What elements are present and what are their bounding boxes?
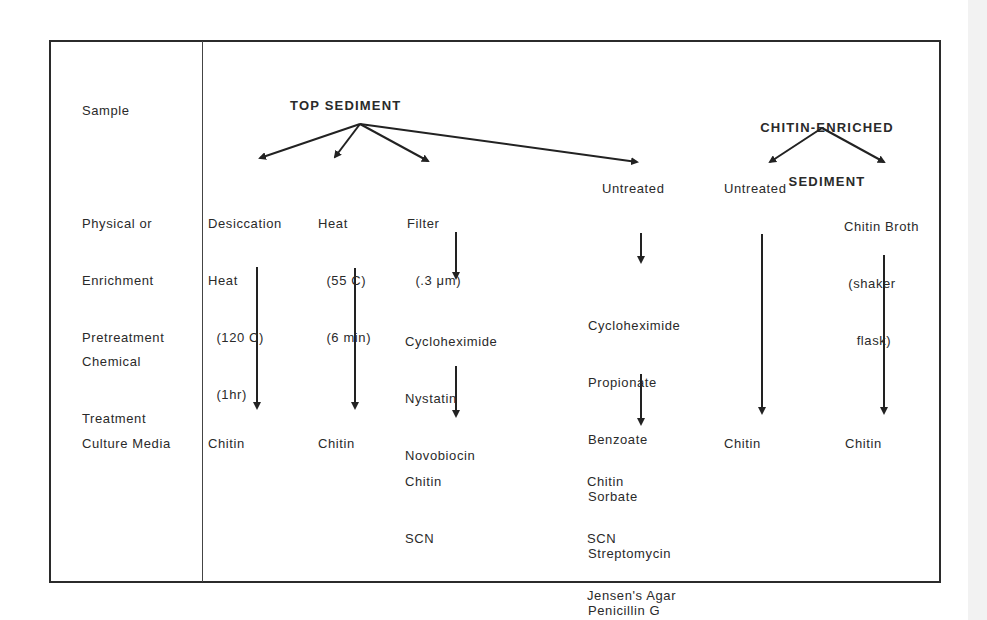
pretreatment-line: Heat: [208, 271, 282, 290]
media-desiccation: Chitin: [208, 434, 245, 453]
media-untreated-enriched: Chitin: [724, 434, 761, 453]
pretreatment-line: Heat: [318, 214, 371, 233]
arrow-to-desiccation: [260, 124, 360, 158]
pretreatment-line: (1hr): [208, 385, 282, 404]
pretreatment-heat: Heat (55 C) (6 min): [318, 176, 371, 366]
pretreatment-line: Desiccation: [208, 214, 282, 233]
chemical-item: Cycloheximide: [405, 332, 497, 351]
media-filter: Chitin SCN: [405, 434, 442, 567]
media-item: SCN: [405, 529, 442, 548]
media-item: SCN: [587, 529, 676, 548]
pretreatment-filter: Filter (.3 μm): [407, 176, 461, 309]
arrow-to-chitin-broth: [822, 128, 884, 162]
pretreatment-line: (6 min): [318, 328, 371, 347]
pretreatment-line: (120 C): [208, 328, 282, 347]
pretreatment-chitin-broth: Chitin Broth (shaker flask): [844, 179, 919, 369]
chemical-item: Nystatin: [405, 389, 497, 408]
media-item: Chitin: [405, 472, 442, 491]
pretreatment-untreated-top: Untreated: [602, 179, 665, 198]
chemical-item: Propionate: [588, 373, 680, 392]
pretreatment-line: (.3 μm): [407, 271, 461, 290]
pretreatment-line: Filter: [407, 214, 461, 233]
pretreatment-desiccation: Desiccation Heat (120 C) (1hr): [208, 176, 282, 423]
arrow-to-untreated-enriched: [770, 128, 822, 162]
chemical-item: Cycloheximide: [588, 316, 680, 335]
pretreatment-line: flask): [844, 331, 919, 350]
media-item: Jensen's Agar: [587, 586, 676, 605]
media-item: Chitin: [587, 472, 676, 491]
media-heat: Chitin: [318, 434, 355, 453]
pretreatment-line: (55 C): [318, 271, 371, 290]
arrow-to-untreated-top: [360, 124, 637, 162]
media-chitin-broth: Chitin: [845, 434, 882, 453]
pretreatment-line: (shaker: [844, 274, 919, 293]
pretreatment-untreated-enriched: Untreated: [724, 179, 787, 198]
pretreatment-line: Chitin Broth: [844, 217, 919, 236]
media-untreated-top: Chitin SCN Jensen's Agar RBME CA AIA RS: [587, 434, 676, 620]
